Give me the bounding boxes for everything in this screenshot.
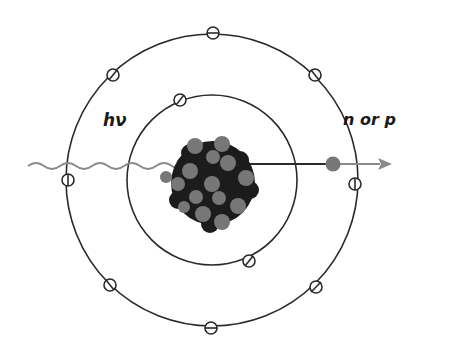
photon-label: hν: [103, 110, 127, 130]
electron-icon: [62, 174, 74, 186]
electron-icon: [349, 178, 361, 190]
ejected-nucleon: [326, 157, 341, 172]
ejection-arrowhead: [378, 158, 392, 170]
electron-icon: [207, 27, 219, 39]
atom-diagram: hν n or p: [0, 0, 450, 353]
electron-icon: [104, 279, 116, 291]
ejected-particle-label: n or p: [343, 110, 396, 129]
electron-icon: [174, 94, 186, 106]
electron-icon: [309, 69, 321, 81]
electron-icon: [310, 281, 322, 293]
electron-icon: [107, 69, 119, 81]
electron-icon: [243, 255, 255, 267]
electron-icon: [205, 322, 217, 334]
nucleus: [160, 136, 259, 233]
